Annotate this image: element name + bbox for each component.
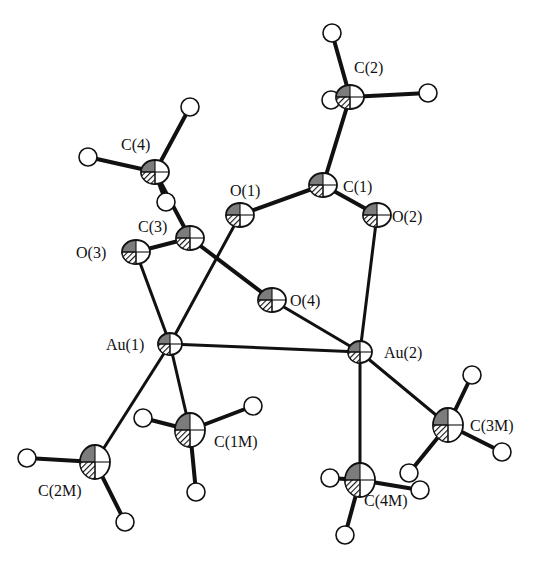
atom-label-O3: O(3) bbox=[76, 244, 106, 262]
hydrogen-atom bbox=[493, 443, 511, 461]
atom-label-O4: O(4) bbox=[290, 292, 320, 310]
bond-O3-Au1 bbox=[136, 252, 170, 344]
atom-label-C3: C(3) bbox=[138, 218, 167, 236]
hydrogen-atom bbox=[181, 98, 199, 116]
atom-labels: C(2)C(1)O(2)O(1)C(4)C(3)O(3)O(4)Au(1)Au(… bbox=[38, 59, 514, 510]
atom-C2 bbox=[336, 85, 364, 109]
hydrogen-atom bbox=[463, 366, 481, 384]
atom-label-O2: O(2) bbox=[392, 208, 422, 226]
hydrogen-atom bbox=[157, 193, 175, 211]
atom-label-C2M: C(2M) bbox=[38, 482, 82, 500]
hydrogen-atom bbox=[18, 449, 36, 467]
atom-label-C3M: C(3M) bbox=[470, 417, 514, 435]
atom-label-C4: C(4) bbox=[121, 136, 150, 154]
atom-C4 bbox=[141, 160, 169, 184]
atom-label-O1: O(1) bbox=[230, 182, 260, 200]
hydrogen-atom bbox=[116, 513, 134, 531]
bond-C3-O4 bbox=[190, 238, 272, 300]
atom-C3M bbox=[433, 408, 463, 442]
bond-C2-C1 bbox=[323, 97, 350, 185]
hydrogen-atom bbox=[134, 409, 152, 427]
bond-Au1-Au2 bbox=[170, 344, 360, 352]
atom-label-Au2: Au(2) bbox=[384, 344, 422, 362]
hydrogen-atom bbox=[187, 483, 205, 501]
atom-O3 bbox=[122, 240, 150, 264]
hydrogen-atom bbox=[336, 526, 354, 544]
atom-Au1 bbox=[158, 333, 182, 355]
hydrogen-atom bbox=[400, 464, 418, 482]
bond-O2-Au2 bbox=[360, 215, 377, 352]
atom-O4 bbox=[258, 288, 286, 312]
atom-O2 bbox=[363, 203, 391, 227]
atom-C3 bbox=[176, 226, 204, 250]
hydrogen-atom bbox=[321, 469, 339, 487]
bond-Au2-C3M bbox=[360, 352, 448, 425]
atom-C1 bbox=[309, 173, 337, 197]
hydrogen-atom bbox=[419, 84, 437, 102]
bond-Au1-C2M bbox=[95, 344, 170, 462]
atom-label-C4M: C(4M) bbox=[364, 492, 408, 510]
atom-label-C1: C(1) bbox=[343, 178, 372, 196]
atom-label-C2: C(2) bbox=[354, 59, 383, 77]
ortep-molecule-diagram: C(2)C(1)O(2)O(1)C(4)C(3)O(3)O(4)Au(1)Au(… bbox=[0, 0, 544, 561]
atom-C1M bbox=[175, 413, 205, 447]
atom-O1 bbox=[226, 203, 254, 227]
hydrogen-atom bbox=[244, 397, 262, 415]
hydrogen-atom bbox=[79, 148, 97, 166]
hydrogen-atom bbox=[411, 481, 429, 499]
atom-label-Au1: Au(1) bbox=[106, 336, 144, 354]
atom-C2M bbox=[80, 445, 110, 479]
atom-label-C1M: C(1M) bbox=[214, 433, 258, 451]
hydrogen-atom bbox=[323, 24, 341, 42]
atom-Au2 bbox=[348, 341, 372, 363]
